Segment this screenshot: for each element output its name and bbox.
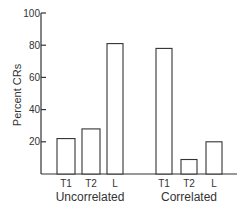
group-label-correlated: Correlated [161,190,217,204]
y-axis: 20406080100 [23,8,46,175]
bar-correlated-t1 [156,48,172,174]
x-category-label: T1 [60,178,72,189]
y-axis-title: Percent CRs [11,63,23,126]
bar-uncorrelated-t2 [82,129,100,174]
y-tick-label: 40 [29,104,41,115]
bar-chart: 20406080100 T1T2LUncorrelatedT1T2LCorrel… [0,0,249,207]
x-category-label: T2 [85,178,97,189]
y-tick-label: 80 [29,40,41,51]
bars [57,44,222,174]
x-category-label: L [112,178,118,189]
bar-correlated-l [206,142,222,174]
group-label-uncorrelated: Uncorrelated [56,190,125,204]
y-tick-label: 100 [23,8,40,19]
x-category-label: L [211,178,217,189]
y-tick-label: 20 [29,136,41,147]
labels: T1T2LUncorrelatedT1T2LCorrelated [56,178,218,204]
x-category-label: T1 [158,178,170,189]
y-tick-label: 60 [29,72,41,83]
bar-uncorrelated-t1 [57,139,75,174]
x-category-label: T2 [183,178,195,189]
bar-correlated-t2 [181,160,197,174]
bar-uncorrelated-l [107,44,123,174]
